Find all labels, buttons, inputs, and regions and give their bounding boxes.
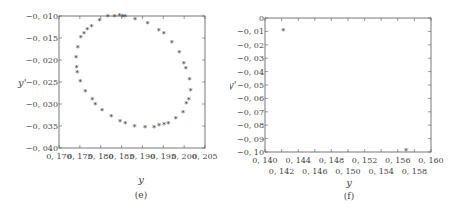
- data-point: *: [118, 118, 122, 127]
- x-tick-label: 0, 146: [302, 167, 327, 176]
- data-point: *: [404, 147, 408, 156]
- data-point: *: [181, 109, 185, 118]
- y-tick-label: −0, 010: [26, 12, 58, 21]
- y-axis-label: y': [230, 79, 236, 90]
- plot-area: ****************************************…: [74, 12, 192, 132]
- y-axis-label: y': [17, 77, 26, 88]
- data-point: *: [162, 30, 166, 39]
- data-point: *: [157, 27, 161, 36]
- x-tick-label: 0, 158: [402, 167, 427, 176]
- x-tick-label: 0, 156: [385, 156, 410, 165]
- scatter-chart-f: ** 0, 1400, 1440, 1480, 1520, 1560, 1600…: [230, 0, 458, 210]
- data-point: *: [145, 20, 149, 29]
- data-point: *: [78, 78, 82, 87]
- x-tick-label: 0, 142: [269, 167, 294, 176]
- axes-frame: [265, 18, 431, 152]
- plot-area: **: [281, 27, 408, 155]
- x-tick-label: 0, 148: [319, 156, 344, 165]
- data-point: *: [74, 54, 78, 63]
- data-point: *: [143, 124, 147, 133]
- y-tick-label: −0, 03: [237, 54, 264, 63]
- data-point: *: [133, 123, 137, 132]
- data-point: *: [109, 113, 113, 122]
- y-tick-label: −0, 10: [237, 148, 264, 157]
- y-ticks: 0−0, 01−0, 02−0, 03−0, 04−0, 05−0, 06−0,…: [237, 14, 431, 157]
- data-point: *: [188, 87, 192, 96]
- data-point: *: [75, 69, 79, 78]
- data-point: *: [187, 96, 191, 105]
- x-tick-label: 0, 160: [418, 156, 443, 165]
- x-tick-label: 0, 150: [335, 167, 360, 176]
- data-point: *: [93, 101, 97, 110]
- data-point: *: [174, 115, 178, 124]
- y-tick-label: −0, 040: [26, 144, 58, 153]
- data-point: *: [83, 88, 87, 97]
- y-tick-label: −0, 025: [26, 78, 58, 87]
- x-axis-label: y: [137, 174, 144, 185]
- x-tick-label: 0, 205: [192, 152, 217, 161]
- x-tick-label: 0, 154: [368, 167, 393, 176]
- y-tick-label: −0, 07: [237, 108, 264, 117]
- y-tick-label: −0, 02: [237, 41, 264, 50]
- data-point: *: [184, 65, 188, 74]
- data-point: *: [170, 39, 174, 48]
- x-tick-label: 0, 140: [252, 156, 277, 165]
- y-tick-label: −0, 06: [237, 94, 264, 103]
- y-tick-label: 0: [259, 14, 264, 23]
- data-point: *: [133, 16, 137, 25]
- data-point: *: [177, 49, 181, 58]
- y-tick-label: −0, 015: [26, 34, 58, 43]
- data-point: *: [123, 13, 127, 22]
- data-point: *: [152, 124, 156, 133]
- panel-label: (e): [135, 190, 147, 200]
- x-tick-label: 0, 144: [285, 156, 310, 165]
- data-point: *: [100, 107, 104, 116]
- scatter-chart-e: ****************************************…: [0, 0, 230, 210]
- x-tick-label: 0, 152: [352, 156, 377, 165]
- y-tick-label: −0, 020: [26, 56, 58, 65]
- y-tick-label: −0, 035: [26, 122, 58, 131]
- y-tick-label: −0, 04: [237, 68, 264, 77]
- data-point: *: [157, 122, 161, 131]
- data-point: *: [281, 27, 285, 36]
- y-tick-label: −0, 08: [237, 121, 264, 130]
- data-point: *: [123, 120, 127, 129]
- data-point: *: [188, 76, 192, 85]
- y-tick-label: −0, 05: [237, 81, 264, 90]
- y-ticks: −0, 010−0, 015−0, 020−0, 025−0, 030−0, 0…: [26, 12, 205, 153]
- x-axis-label: y: [345, 177, 352, 188]
- y-tick-label: −0, 030: [26, 100, 58, 109]
- y-tick-label: −0, 09: [237, 135, 264, 144]
- data-point: *: [106, 13, 110, 22]
- data-point: *: [90, 23, 94, 32]
- data-point: *: [76, 44, 80, 53]
- y-tick-label: −0, 01: [237, 27, 264, 36]
- data-point: *: [166, 120, 170, 129]
- data-point: *: [112, 13, 116, 22]
- panel-label: (f): [344, 191, 354, 201]
